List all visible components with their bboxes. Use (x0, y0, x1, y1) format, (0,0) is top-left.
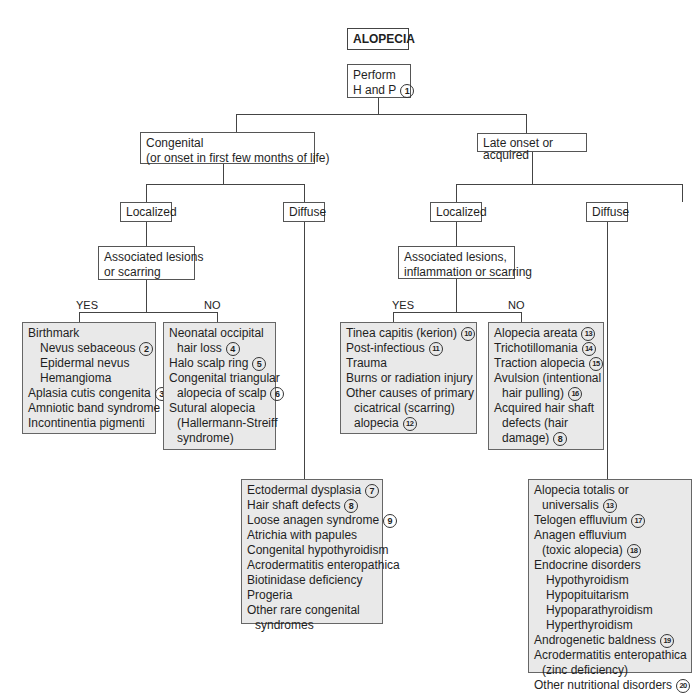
list-item: Hypoparathyroidism (534, 603, 686, 618)
list-item: damage)8 (494, 431, 598, 446)
yes-label: YES (76, 299, 98, 311)
list-item-text: Alopecia totalis or (534, 483, 629, 497)
connector (456, 278, 457, 312)
list-item: Other rare congenital (247, 603, 377, 618)
node-line: (or onset in first few months of life) (146, 151, 309, 166)
list-item: Progeria (247, 588, 377, 603)
list-item-text: Hemangioma (40, 371, 111, 385)
list-item: hair pulling)16 (494, 386, 598, 401)
connector (393, 312, 521, 313)
list-item: Halo scalp ring5 (169, 356, 270, 371)
list-item-text: Other rare congenital (247, 603, 360, 617)
list-item: Telogen effluvium17 (534, 513, 686, 528)
list-item-text: alopecia of scalp (177, 386, 266, 400)
list-item: (Hallermann-Streiff (169, 416, 270, 431)
connector (532, 150, 533, 184)
list-item-text: Endocrine disorders (534, 558, 641, 572)
list-item: Hemangioma (28, 371, 150, 386)
list-item: hair loss4 (169, 341, 270, 356)
congenital-localized-node: Localized (120, 202, 172, 222)
connector (146, 184, 304, 185)
list-item: Atrichia with papules (247, 528, 377, 543)
no-label: NO (204, 299, 221, 311)
list-item: Traction alopecia15 (494, 356, 598, 371)
connector (146, 184, 147, 202)
list-item-text: (zinc deficiency) (542, 663, 628, 677)
chart-title: ALOPECIA (347, 28, 409, 50)
reference-number-badge: 6 (270, 387, 284, 401)
reference-number-badge: 14 (582, 342, 596, 356)
list-item: alopecia12 (346, 416, 471, 431)
list-item-text: Acquired hair shaft (494, 401, 594, 415)
list-item: Amniotic band syndrome (28, 401, 150, 416)
reference-number-badge: 11 (429, 342, 443, 356)
reference-number-badge: 19 (660, 634, 674, 648)
list-item-text: Burns or radiation injury (346, 371, 473, 385)
acquired-question-node: Associated lesions, inflammation or scar… (398, 246, 515, 279)
list-item-text: Alopecia areata (494, 326, 577, 340)
list-item: Endocrine disorders (534, 558, 686, 573)
connector (526, 114, 527, 134)
connector (456, 184, 682, 185)
connector (393, 312, 394, 322)
list-item-text: Trauma (346, 356, 387, 370)
list-item: Ectodermal dysplasia7 (247, 483, 377, 498)
list-item: syndrome) (169, 431, 270, 446)
reference-number-badge: 15 (589, 357, 603, 371)
list-item-text: Halo scalp ring (169, 356, 248, 370)
reference-number-badge: 9 (383, 514, 397, 528)
list-item-text: Hypoparathyroidism (546, 603, 653, 617)
yes-label: YES (392, 299, 414, 311)
list-item: Neonatal occipital (169, 326, 270, 341)
list-item: Hypothyroidism (534, 573, 686, 588)
reference-number-badge: 1 (400, 84, 414, 98)
list-item-text: Telogen effluvium (534, 513, 627, 527)
reference-number-badge: 13 (581, 327, 595, 341)
list-item-text: Nevus sebaceous (40, 341, 135, 355)
list-item-text: syndrome) (177, 431, 234, 445)
list-item-text: Atrichia with papules (247, 528, 357, 542)
node-line: Congenital (146, 136, 309, 151)
connector (607, 222, 608, 480)
list-item-text: Acrodermatitis enteropathica (247, 558, 400, 572)
reference-number-badge: 20 (676, 679, 690, 693)
list-item: universalis13 (534, 498, 686, 513)
reference-number-badge: 7 (365, 484, 379, 498)
list-item-text: Androgenetic baldness (534, 633, 656, 647)
root-line: H and P1 (353, 83, 405, 98)
list-item: Acrodermatitis enteropathica (534, 648, 686, 663)
list-item-text: Neonatal occipital (169, 326, 264, 340)
connector (304, 222, 305, 480)
list-item: Biotinidase deficiency (247, 573, 377, 588)
list-item: Congenital hypothyroidism (247, 543, 377, 558)
list-item: Nevus sebaceous2 (28, 341, 150, 356)
list-item-text: (toxic alopecia) (542, 543, 623, 557)
list-item-text: Sutural alopecia (169, 401, 255, 415)
list-item-text: Avulsion (intentional (494, 371, 601, 385)
list-item: Birthmark (28, 326, 150, 341)
congenital-question-node: Associated lesions or scarring (98, 246, 195, 280)
list-item: Aplasia cutis congenita3 (28, 386, 150, 401)
root-line: Perform (353, 68, 405, 83)
list-item-text: Hyperthyroidism (546, 618, 633, 632)
list-item-text: defects (hair (502, 416, 568, 430)
list-item: Sutural alopecia (169, 401, 270, 416)
list-item: syndromes (247, 618, 377, 633)
list-item: Avulsion (intentional (494, 371, 598, 386)
list-item-text: Loose anagen syndrome (247, 513, 379, 527)
list-item: Tinea capitis (kerion)10 (346, 326, 471, 341)
list-item-text: Hypothyroidism (546, 573, 629, 587)
list-item-text: (Hallermann-Streiff (177, 416, 277, 430)
acquired-node: Late onset or acquired (477, 133, 587, 152)
list-item: defects (hair (494, 416, 598, 431)
reference-number-badge: 13 (603, 499, 617, 513)
reference-number-badge: 8 (344, 499, 358, 513)
list-item-text: damage) (502, 431, 549, 445)
list-item: Acquired hair shaft (494, 401, 598, 416)
list-item-text: cicatrical (scarring) (354, 401, 455, 415)
node-line: Associated lesions, (404, 250, 509, 265)
list-item-text: Acrodermatitis enteropathica (534, 648, 687, 662)
list-item: Congenital triangular (169, 371, 270, 386)
connector (79, 312, 217, 313)
list-item-text: Hypopituitarism (546, 588, 629, 602)
